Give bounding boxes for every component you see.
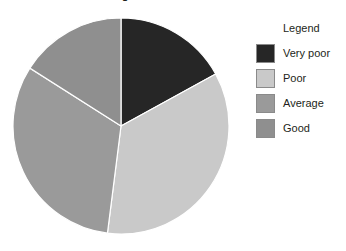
legend-swatch-good: [256, 119, 275, 138]
legend-item-very-poor[interactable]: Very poor: [256, 41, 346, 66]
legend-swatch-average: [256, 94, 275, 113]
legend: Legend Very poor Poor Average Good: [256, 22, 346, 141]
legend-item-good[interactable]: Good: [256, 116, 346, 141]
legend-item-poor[interactable]: Poor: [256, 66, 346, 91]
legend-label-very-poor: Very poor: [283, 47, 330, 60]
chart-title: g: [0, 0, 250, 2]
legend-item-average[interactable]: Average: [256, 91, 346, 116]
pie-chart-svg: [13, 18, 229, 234]
legend-label-poor: Poor: [283, 72, 306, 85]
legend-swatch-poor: [256, 69, 275, 88]
legend-label-average: Average: [283, 97, 324, 110]
pie-chart: [13, 18, 229, 234]
legend-swatch-very-poor: [256, 44, 275, 63]
legend-title: Legend: [283, 22, 346, 35]
legend-label-good: Good: [283, 122, 310, 135]
pie-slices: [13, 18, 229, 234]
